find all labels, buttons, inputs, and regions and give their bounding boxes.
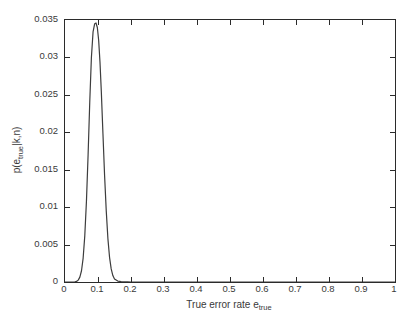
y-tick-label: 0.03 <box>40 52 59 62</box>
x-tick-mark-top <box>329 20 330 25</box>
x-tick-label: 0.7 <box>288 284 301 294</box>
x-tick-mark-top <box>230 20 231 25</box>
y-tick-mark <box>65 57 70 58</box>
y-tick-mark-right <box>390 245 395 246</box>
y-tick-label-group: 00.0050.010.0150.020.0250.030.035 <box>0 19 58 281</box>
x-tick-label-group: 00.10.20.30.40.50.60.70.80.91 <box>64 284 394 298</box>
x-axis-label: True error rate etrue <box>64 299 394 312</box>
plot-area <box>64 19 396 283</box>
x-tick-mark-top <box>131 20 132 25</box>
y-tick-label: 0.01 <box>40 201 59 211</box>
x-tick-label: 0.4 <box>189 284 202 294</box>
x-tick-label: 0.9 <box>354 284 367 294</box>
x-tick-label: 0.2 <box>123 284 136 294</box>
y-tick-mark <box>65 245 70 246</box>
y-tick-label: 0.025 <box>34 89 58 99</box>
x-tick-label: 0.8 <box>321 284 334 294</box>
y-tick-label: 0.02 <box>40 127 59 137</box>
y-tick-label: 0.035 <box>34 14 58 24</box>
x-tick-label: 0.3 <box>156 284 169 294</box>
x-tick-mark <box>263 277 264 282</box>
x-tick-mark <box>98 277 99 282</box>
y-axis-label-main: p(e <box>11 159 22 173</box>
x-tick-label: 0.1 <box>90 284 103 294</box>
x-tick-mark-top <box>362 20 363 25</box>
x-tick-mark <box>329 277 330 282</box>
y-tick-mark-right <box>390 132 395 133</box>
y-axis-label-tail: |k,n) <box>11 127 22 146</box>
figure-canvas: 00.0050.010.0150.020.0250.030.035 p(etru… <box>0 0 415 329</box>
x-tick-label: 0.5 <box>222 284 235 294</box>
y-tick-mark-right <box>390 57 395 58</box>
x-tick-mark-top <box>164 20 165 25</box>
y-axis-label: p(etrue|k,n) <box>11 127 24 174</box>
y-tick-mark <box>65 95 70 96</box>
density-curve <box>65 20 395 282</box>
y-tick-label: 0 <box>53 276 58 286</box>
y-tick-mark <box>65 207 70 208</box>
x-tick-mark-top <box>197 20 198 25</box>
x-tick-mark-top <box>296 20 297 25</box>
x-tick-mark-top <box>98 20 99 25</box>
y-tick-mark-right <box>390 95 395 96</box>
y-tick-mark-right <box>390 170 395 171</box>
y-tick-mark <box>65 170 70 171</box>
y-tick-mark <box>65 132 70 133</box>
y-axis-label-subscript: true <box>16 146 25 159</box>
x-tick-mark <box>230 277 231 282</box>
y-tick-label: 0.005 <box>34 239 58 249</box>
x-tick-label: 1 <box>391 284 396 294</box>
x-axis-label-subscript: true <box>259 303 272 312</box>
x-tick-label: 0 <box>61 284 66 294</box>
y-tick-label: 0.015 <box>34 164 58 174</box>
x-tick-mark <box>164 277 165 282</box>
y-tick-mark-right <box>390 207 395 208</box>
x-tick-mark-top <box>263 20 264 25</box>
x-tick-mark <box>362 277 363 282</box>
x-tick-label: 0.6 <box>255 284 268 294</box>
y-axis-label-container: p(etrue|k,n) <box>10 19 26 281</box>
x-tick-mark <box>197 277 198 282</box>
x-axis-label-main: True error rate e <box>186 299 258 310</box>
x-tick-mark <box>131 277 132 282</box>
x-tick-mark <box>296 277 297 282</box>
